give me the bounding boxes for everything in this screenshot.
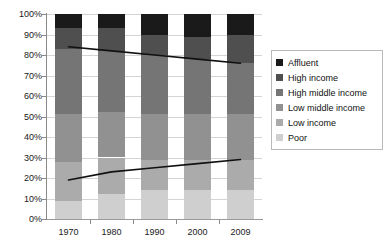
bar-segment [184, 59, 211, 114]
bar-segment [227, 63, 254, 114]
bar-2009 [227, 14, 254, 219]
legend-swatch-icon [276, 89, 283, 96]
bar-segment [184, 114, 211, 159]
bar-segment [98, 28, 125, 51]
bar-segment [227, 14, 254, 35]
y-tick-label: 60% [2, 91, 42, 101]
x-tick-label-1990: 1990 [132, 227, 178, 238]
bar-1990 [141, 14, 168, 219]
bar-segment [184, 160, 211, 191]
legend-swatch-icon [276, 134, 283, 141]
legend-label: Low income [288, 118, 336, 128]
bar-segment [227, 114, 254, 159]
bar-segment [184, 37, 211, 60]
x-tick-mark [90, 220, 91, 224]
legend-swatch-icon [276, 59, 283, 66]
legend-label: High middle income [288, 88, 367, 98]
x-tick-mark [176, 220, 177, 224]
bar-segment [227, 160, 254, 191]
legend-swatch-icon [276, 104, 283, 111]
chart-container: 100%90%80%70%60%50%40%30%20%10%0% 197019… [0, 0, 386, 251]
legend-item[interactable]: Affluent [276, 55, 379, 70]
legend-swatch-icon [276, 74, 283, 81]
bar-segment [55, 162, 82, 201]
x-tick-mark [133, 220, 134, 224]
y-tick-label: 50% [2, 112, 42, 122]
plot-area [47, 14, 262, 219]
legend-label: High income [288, 73, 338, 83]
legend-item[interactable]: Poor [276, 130, 379, 145]
bar-segment [98, 194, 125, 219]
bar-segment [55, 201, 82, 219]
bar-segment [55, 49, 82, 115]
y-tick-label: 80% [2, 50, 42, 60]
bar-segment [98, 112, 125, 157]
x-tick-label-1980: 1980 [89, 227, 135, 238]
legend-item[interactable]: Low income [276, 115, 379, 130]
x-tick-mark [219, 220, 220, 224]
bar-1970 [55, 14, 82, 219]
bar-segment [227, 190, 254, 219]
bar-segment [55, 114, 82, 161]
bar-segment [184, 190, 211, 219]
bar-segment [227, 35, 254, 64]
bar-segment [98, 158, 125, 195]
y-axis-labels: 100%90%80%70%60%50%40%30%20%10%0% [0, 0, 42, 251]
x-tick-label-2009: 2009 [218, 227, 264, 238]
y-tick-label: 30% [2, 153, 42, 163]
legend-swatch-icon [276, 119, 283, 126]
bar-segment [184, 14, 211, 37]
bar-segment [55, 28, 82, 49]
bar-segment [141, 35, 168, 56]
x-tick-label-1970: 1970 [46, 227, 92, 238]
y-tick-label: 40% [2, 132, 42, 142]
bar-2000 [184, 14, 211, 219]
legend-label: Low middle income [288, 103, 365, 113]
y-tick-label: 10% [2, 194, 42, 204]
legend-item[interactable]: High income [276, 70, 379, 85]
legend-item[interactable]: High middle income [276, 85, 379, 100]
bar-1980 [98, 14, 125, 219]
y-tick-label: 100% [2, 9, 42, 19]
legend-label: Affluent [288, 58, 318, 68]
bar-segment [98, 51, 125, 113]
bar-segment [141, 14, 168, 35]
bar-segment [55, 14, 82, 28]
y-tick-label: 0% [2, 214, 42, 224]
bar-segment [141, 114, 168, 159]
y-tick-label: 90% [2, 30, 42, 40]
bar-segment [141, 160, 168, 191]
legend-item[interactable]: Low middle income [276, 100, 379, 115]
y-tick-label: 20% [2, 173, 42, 183]
chart-legend: AffluentHigh incomeHigh middle incomeLow… [271, 50, 383, 150]
bar-segment [141, 55, 168, 114]
x-tick-label-2000: 2000 [175, 227, 221, 238]
legend-label: Poor [288, 133, 307, 143]
bar-segment [141, 190, 168, 219]
gridline-0 [47, 219, 262, 220]
y-tick-label: 70% [2, 71, 42, 81]
bar-segment [98, 14, 125, 28]
